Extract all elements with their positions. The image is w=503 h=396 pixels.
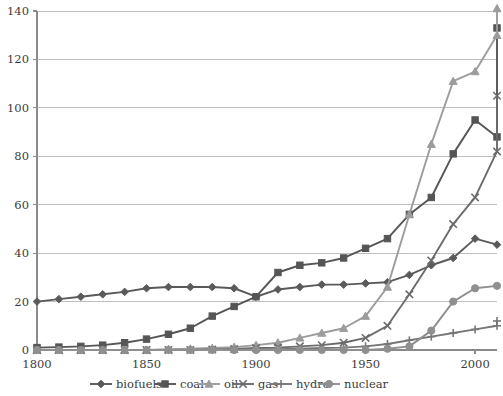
- marker-biofuels-5: [143, 284, 151, 292]
- marker-nuclear-19: [450, 298, 457, 305]
- marker-nuclear-18: [428, 327, 435, 334]
- marker-nuclear-13: [318, 346, 325, 353]
- marker-biofuels-21: [493, 241, 501, 249]
- marker-coal-7: [187, 325, 193, 331]
- marker-oil-18: [427, 140, 435, 147]
- y-tick-label-100: 100: [7, 101, 29, 115]
- marker-nuclear-11: [274, 346, 281, 353]
- marker-gas-16: [384, 322, 391, 329]
- marker-nuclear-7: [187, 346, 194, 353]
- marker-oil-21: [493, 31, 501, 38]
- series-line-biofuels: [37, 239, 497, 302]
- y-tick-label-0: 0: [22, 343, 29, 357]
- x-tick-label-1950: 1950: [351, 357, 380, 371]
- marker-coal-16: [384, 235, 390, 241]
- marker-nuclear-16: [384, 345, 391, 352]
- marker-coal-10: [253, 294, 259, 300]
- marker-coal-8: [209, 313, 215, 319]
- axis-lines: [33, 11, 497, 354]
- marker-nuclear-9: [231, 346, 238, 353]
- marker-coal-14: [340, 255, 346, 261]
- chart-legend: biofuelscoaloilgashydronuclear: [90, 377, 389, 391]
- marker-nuclear-5: [143, 346, 150, 353]
- marker-biofuels-7: [187, 283, 195, 291]
- marker-coal-18: [428, 194, 434, 200]
- series-oil: [33, 5, 501, 354]
- marker-biofuels-8: [208, 283, 216, 291]
- y-tick-label-20: 20: [14, 295, 29, 309]
- marker-nuclear-2: [77, 346, 84, 353]
- marker-coal-5: [143, 336, 149, 342]
- legend-marker-hydro: [277, 380, 285, 388]
- x-tick-label-2000: 2000: [460, 357, 489, 371]
- marker-hydro-20: [471, 325, 479, 333]
- marker-nuclear-1: [55, 346, 62, 353]
- marker-oil-14: [340, 324, 348, 331]
- marker-coal-19: [450, 151, 456, 157]
- marker-hydro-22: [493, 317, 501, 325]
- gridlines: [37, 11, 497, 350]
- marker-nuclear-8: [209, 346, 216, 353]
- marker-biofuels-12: [296, 283, 304, 291]
- y-tick-label-140: 140: [7, 4, 29, 18]
- x-tick-label-1800: 1800: [22, 357, 51, 371]
- marker-biofuels-4: [121, 288, 129, 296]
- marker-nuclear-3: [99, 346, 106, 353]
- marker-biofuels-14: [340, 281, 348, 289]
- marker-nuclear-15: [362, 346, 369, 353]
- marker-coal-12: [297, 262, 303, 268]
- marker-nuclear-14: [340, 346, 347, 353]
- marker-nuclear-21: [493, 282, 500, 289]
- legend-item-biofuels[interactable]: biofuels: [90, 377, 162, 391]
- marker-nuclear-6: [165, 346, 172, 353]
- x-axis-tick-labels: 18001850190019502000: [22, 357, 489, 371]
- marker-coal-11: [275, 269, 281, 275]
- series-gas: [33, 92, 500, 354]
- marker-nuclear-20: [471, 285, 478, 292]
- marker-gas-19: [449, 220, 456, 227]
- y-tick-label-80: 80: [14, 149, 29, 163]
- marker-gas-17: [406, 291, 413, 298]
- marker-nuclear-0: [33, 346, 40, 353]
- y-axis-tick-labels: 020406080100120140: [7, 4, 29, 357]
- y-tick-label-120: 120: [7, 52, 29, 66]
- marker-coal-9: [231, 303, 237, 309]
- legend-marker-nuclear: [325, 380, 332, 387]
- x-tick-label-1850: 1850: [132, 357, 161, 371]
- x-tick-label-1900: 1900: [241, 357, 270, 371]
- marker-gas-20: [471, 194, 478, 201]
- marker-biofuels-3: [99, 291, 107, 299]
- plot-area: 020406080100120140 18001850190019502000 …: [0, 0, 503, 396]
- marker-coal-6: [165, 331, 171, 337]
- legend-marker-coal: [162, 381, 168, 387]
- marker-coal-15: [362, 245, 368, 251]
- legend-marker-biofuels: [97, 380, 105, 388]
- y-tick-label-40: 40: [14, 246, 29, 260]
- marker-coal-20: [472, 117, 478, 123]
- series-line-gas: [37, 96, 497, 350]
- series-biofuels: [33, 235, 501, 306]
- marker-biofuels-13: [318, 281, 326, 289]
- marker-coal-13: [319, 260, 325, 266]
- marker-nuclear-17: [406, 343, 413, 350]
- chart-canvas: 020406080100120140 18001850190019502000 …: [0, 0, 503, 396]
- series-line-coal: [37, 28, 497, 348]
- marker-nuclear-12: [296, 346, 303, 353]
- marker-oil-16: [383, 283, 391, 290]
- marker-oil-22: [493, 5, 501, 12]
- energy-consumption-line-chart: 020406080100120140 18001850190019502000 …: [0, 0, 503, 396]
- marker-nuclear-10: [252, 346, 259, 353]
- marker-nuclear-4: [121, 346, 128, 353]
- y-tick-label-60: 60: [14, 198, 29, 212]
- marker-biofuels-6: [165, 283, 173, 291]
- marker-hydro-19: [449, 329, 457, 337]
- marker-biofuels-15: [362, 280, 370, 288]
- marker-biofuels-11: [274, 286, 282, 294]
- legend-label-nuclear: nuclear: [344, 377, 389, 391]
- marker-biofuels-9: [230, 284, 238, 292]
- marker-biofuels-17: [406, 271, 414, 279]
- marker-biofuels-0: [33, 298, 41, 306]
- marker-biofuels-2: [77, 293, 85, 301]
